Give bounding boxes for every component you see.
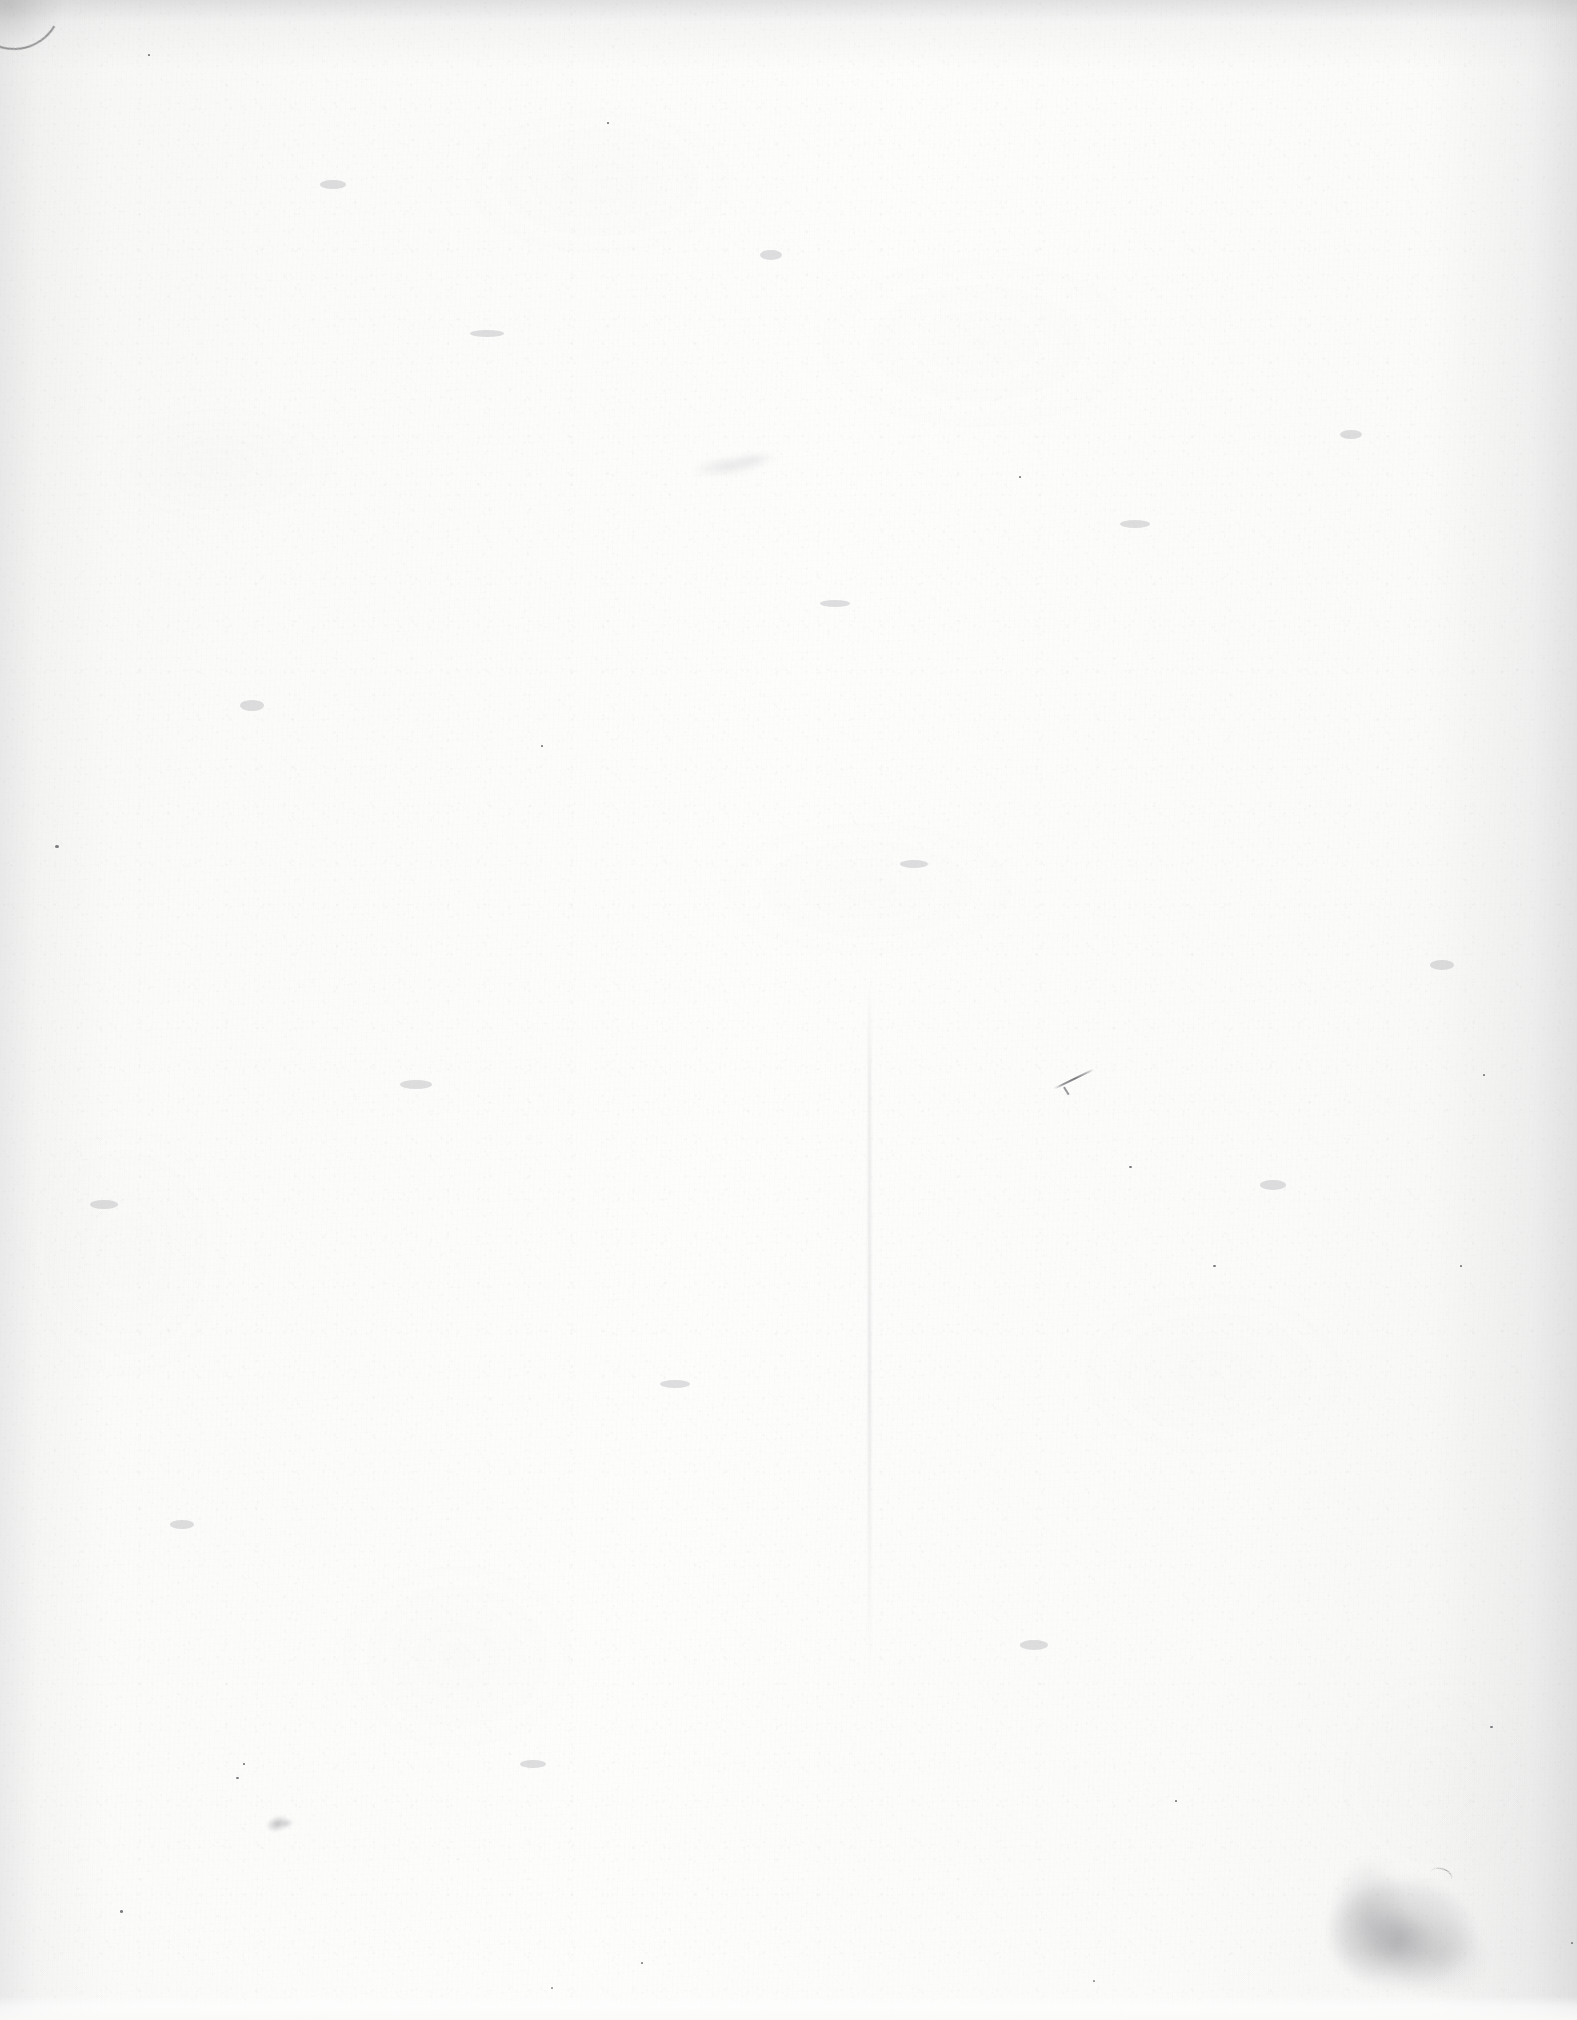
- torn-corner: [0, 0, 110, 110]
- soft-vignette: [0, 0, 1577, 2020]
- scanned-page: [0, 0, 1577, 2020]
- bottom-edge-band: [0, 1996, 1577, 2020]
